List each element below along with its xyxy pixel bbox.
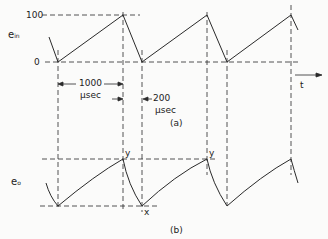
input-sawtooth-wave — [49, 15, 298, 62]
sawtooth-waveform-diagram: ein 100 0 1000 μsec 200 μsec (a) t eo y … — [0, 0, 328, 239]
point-x-label: x — [144, 208, 149, 217]
panel-b-caption: (b) — [170, 226, 183, 235]
output-exponential-wave — [46, 159, 298, 206]
output-signal-label: eo — [11, 177, 21, 187]
point-y-label-1: y — [125, 149, 130, 158]
fall-interval-unit: μsec — [155, 106, 176, 115]
tick-label-0: 0 — [34, 58, 40, 67]
fall-interval-value: 200 — [153, 94, 170, 103]
waveform-drawing — [0, 0, 328, 239]
time-axis-arrowhead — [316, 73, 322, 77]
time-axis-label: t — [300, 81, 304, 90]
rise-interval-unit: μsec — [80, 91, 101, 100]
panel-a-caption: (a) — [170, 119, 183, 128]
tick-label-100: 100 — [26, 11, 43, 20]
input-signal-label: ein — [8, 30, 20, 40]
rise-interval-value: 1000 — [79, 79, 102, 88]
point-y-label-2: y — [209, 149, 214, 158]
